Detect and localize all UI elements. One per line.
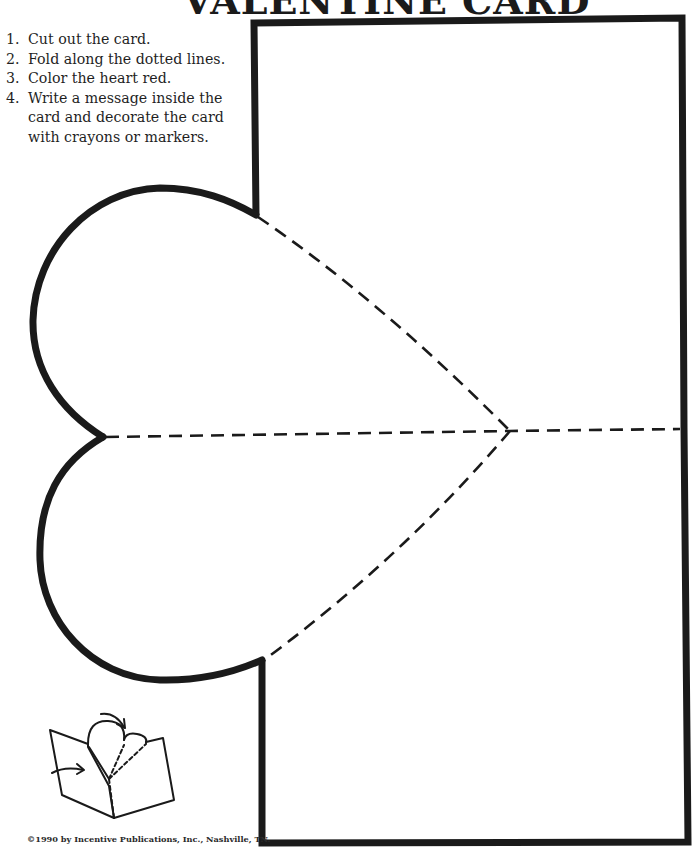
fold-line-horizontal — [106, 429, 680, 437]
heart-outline-lower-lobe — [40, 437, 262, 680]
copyright-notice: ©1990 by Incentive Publications, Inc., N… — [27, 834, 270, 844]
card-cutout-artwork — [0, 0, 693, 856]
fold-line-upper-diagonal — [258, 217, 510, 431]
heart-outline-upper-lobe — [33, 188, 256, 437]
folding-diagram-icon — [50, 714, 174, 818]
fold-line-lower-diagonal — [264, 431, 510, 660]
